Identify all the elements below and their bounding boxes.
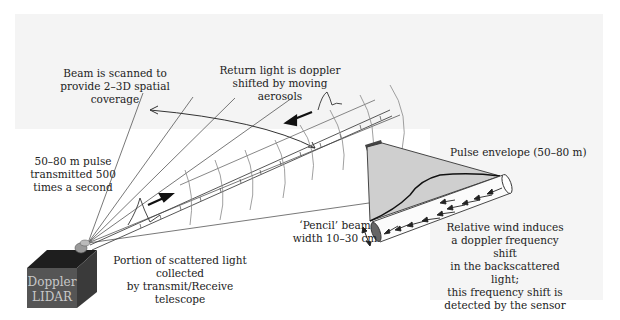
label-pulse-transmit: 50–80 m pulse transmitted 500 times a se… [28,155,118,194]
label-relative-wind: Relative wind induces a doppler frequenc… [440,221,570,312]
scan-arc-arrow [150,106,315,148]
label-pulse-envelope: Pulse envelope (50–80 m) [450,146,590,159]
beam-ticks [140,116,381,228]
return-arrow [286,112,312,125]
outgoing-arrow [148,194,172,205]
label-return-light: Return light is doppler shifted by movin… [210,64,350,103]
label-scattered-light: Portion of scattered light collected by … [100,254,260,306]
label-beam-scanned: Beam is scanned to provide 2–3D spatial … [60,67,170,106]
label-pencil-beam: ‘Pencil’ beam width 10–30 cm [290,219,380,245]
device-label: Doppler LIDAR [27,275,77,305]
upper-beam-line [180,100,375,185]
